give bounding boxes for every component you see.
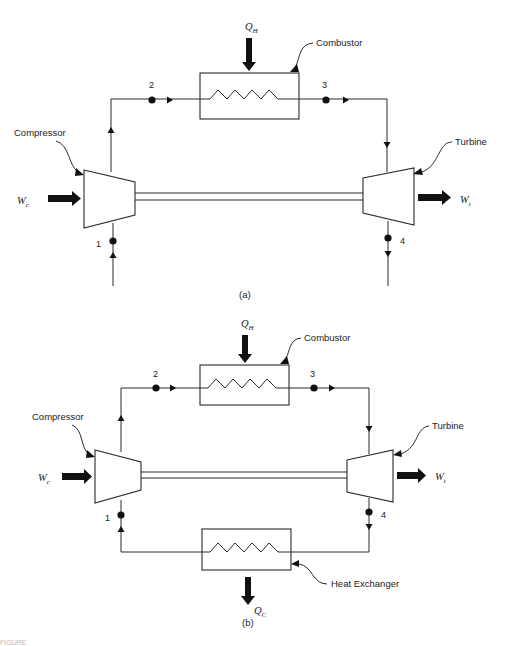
heat-in-arrow-b <box>238 335 252 363</box>
state-label-2-a: 2 <box>149 80 154 90</box>
flow-arrow-3-b <box>329 385 335 392</box>
state-point-3-a <box>322 96 329 103</box>
state-point-1-a <box>109 237 116 244</box>
compressor-a <box>84 170 135 228</box>
work-in-arrow-a <box>48 191 81 206</box>
combustor-label-a: Combustor <box>316 37 362 48</box>
qh-label-b: QH <box>241 318 255 332</box>
state-label-4-b: 4 <box>381 510 386 520</box>
compressor-leader-b <box>72 425 89 454</box>
turbine-pointer-b <box>393 450 402 457</box>
combustor-pointer-a <box>290 64 299 72</box>
qh-label-a: QH <box>245 21 259 35</box>
state-point-3-b <box>310 384 317 391</box>
work-in-arrow-b <box>62 469 92 484</box>
flow-arrow-outlet-a <box>385 251 392 257</box>
state-label-4-a: 4 <box>400 236 405 246</box>
state-label-3-a: 3 <box>322 80 327 90</box>
panel-a: QH Combustor 2 3 Compressor Tur <box>14 21 487 300</box>
flow-arrow-4-b <box>366 524 373 530</box>
work-out-arrow-b <box>397 468 426 483</box>
compressor-b <box>95 450 141 503</box>
flow-arrow-2-b <box>170 385 176 392</box>
compressor-pointer-a <box>75 168 84 176</box>
panel-b: QH Combustor 2 3 Compressor Turbine <box>32 318 464 628</box>
caption-a: (a) <box>239 289 251 300</box>
state-point-1-b <box>117 511 124 518</box>
heat-out-arrow-b <box>241 577 255 605</box>
work-out-arrow-a <box>418 190 451 205</box>
wt-label-a: Wt <box>460 194 472 208</box>
flow-arrow-1-b <box>118 526 125 532</box>
brayton-cycle-figure: QH Combustor 2 3 Compressor Tur <box>0 0 507 646</box>
flow-arrow-inlet-a <box>110 252 117 258</box>
combustor-leader-a <box>296 43 313 66</box>
turbine-leader-a <box>422 142 452 172</box>
turbine-label-b: Turbine <box>432 420 464 431</box>
state-point-2-a <box>148 96 155 103</box>
combustor-label-b: Combustor <box>304 332 350 343</box>
turbine-a <box>363 168 414 225</box>
flow-arrow-2-a <box>167 97 173 104</box>
pipe-exchanger-to-compressor-b <box>121 500 202 552</box>
combustor-leader-b <box>286 338 301 358</box>
pipe-combustor-to-turbine-a <box>299 99 387 172</box>
state-label-1-b: 1 <box>105 513 110 523</box>
pipe-combustor-to-turbine-b <box>289 388 369 454</box>
state-label-2-b: 2 <box>153 369 158 379</box>
caption-b: (b) <box>242 617 254 628</box>
heat-exchanger-leader-b <box>299 564 327 584</box>
state-point-4-b <box>365 508 372 515</box>
heat-in-arrow-a <box>242 38 256 71</box>
wc-label-b: Wc <box>38 472 51 486</box>
state-point-2-b <box>152 384 159 391</box>
wc-label-a: Wc <box>17 195 30 209</box>
combustor-pointer-b <box>280 356 289 364</box>
flow-arrow-up-b <box>118 415 125 421</box>
pipe-compressor-to-combustor-b <box>121 388 200 452</box>
pipe-compressor-to-combustor-a <box>111 99 200 172</box>
compressor-pointer-b <box>86 450 95 458</box>
compressor-label-b: Compressor <box>32 411 84 422</box>
pipe-turbine-to-exchanger-b <box>291 498 369 552</box>
turbine-label-a: Turbine <box>455 136 487 147</box>
compressor-leader-a <box>56 141 78 172</box>
turbine-b <box>347 450 393 502</box>
flow-arrow-3-a <box>343 97 349 104</box>
qc-label-b: QC <box>254 605 267 619</box>
state-label-3-b: 3 <box>310 369 315 379</box>
combustor-box-a <box>200 73 299 119</box>
state-point-4-a <box>384 234 391 241</box>
diagram-svg: QH Combustor 2 3 Compressor Tur <box>0 0 507 646</box>
heat-exchanger-pointer-b <box>291 560 299 567</box>
compressor-label-a: Compressor <box>14 127 66 138</box>
heat-exchanger-label-b: Heat Exchanger <box>331 578 399 589</box>
figure-caption-fragment: FIGURE <box>0 639 27 646</box>
flow-arrow-up-a <box>108 127 115 133</box>
turbine-leader-b <box>401 426 429 454</box>
wt-label-b: Wt <box>435 471 447 485</box>
flow-arrow-down-b <box>366 426 373 432</box>
flow-arrow-down-a <box>384 142 391 148</box>
state-label-1-a: 1 <box>96 239 101 249</box>
